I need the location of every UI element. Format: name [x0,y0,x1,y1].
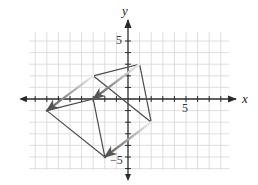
y-tick-neg5: −5 [110,153,123,167]
axis-labels: x y 5 5 −5 [110,3,248,167]
y-tick-5: 5 [116,33,122,47]
y-axis-down-arrow [125,174,131,181]
x-axis-left-arrow [20,96,27,102]
image-triangle [47,99,105,157]
y-axis-label: y [120,3,128,18]
x-tick-5: 5 [182,101,188,115]
coordinate-plane: x y 5 5 −5 [0,0,258,185]
x-axis-label: x [241,91,248,106]
